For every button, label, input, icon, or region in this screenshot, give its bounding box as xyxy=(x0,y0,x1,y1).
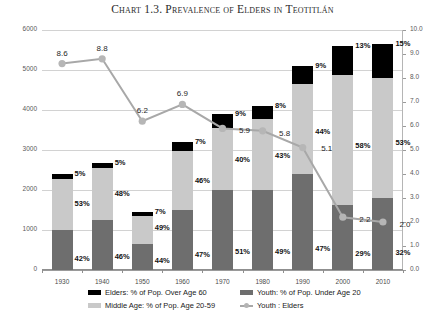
ratio-data-point xyxy=(339,214,346,221)
legend-label: Elders: % of Pop. Over Age 60 xyxy=(105,288,207,297)
legend-swatch-icon xyxy=(88,290,101,295)
x-axis-tick-label: 1960 xyxy=(175,278,189,285)
y-axis-tick-label: 3000 xyxy=(23,146,37,153)
y-axis-tick-label: 2000 xyxy=(23,186,37,193)
legend-item[interactable]: Youth: % of Pop. Under Age 20 xyxy=(240,288,388,297)
legend-item[interactable]: Middle Age: % of Pop. Age 20-59 xyxy=(88,301,240,310)
y2-axis-tick-mark xyxy=(403,198,406,199)
ratio-data-label: 2.2 xyxy=(359,215,370,224)
y-axis-tick-label: 5000 xyxy=(23,66,37,73)
x-axis-tick-mark xyxy=(42,270,43,273)
ratio-data-label: 5.8 xyxy=(279,129,290,138)
x-axis-tick-mark xyxy=(243,270,244,273)
y-axis-tick-label: 4000 xyxy=(23,106,37,113)
x-axis-tick-label: 1930 xyxy=(55,278,69,285)
ratio-data-label: 2.0 xyxy=(399,220,410,229)
y2-axis-tick-label: 6.0 xyxy=(410,122,419,129)
ratio-data-point xyxy=(139,118,146,125)
x-axis-tick-label: 1980 xyxy=(255,278,269,285)
x-axis-tick-mark xyxy=(122,270,123,273)
y2-axis-tick-label: 9.0 xyxy=(410,50,419,57)
ratio-data-point xyxy=(219,125,226,132)
x-axis-tick-mark xyxy=(323,270,324,273)
y2-axis-tick-label: 3.0 xyxy=(410,194,419,201)
legend-item[interactable]: Youth : Elders xyxy=(240,301,388,310)
chart-legend: Elders: % of Pop. Over Age 60Youth: % of… xyxy=(88,286,388,312)
x-axis-tick-mark xyxy=(363,270,364,273)
ratio-data-label: 5.1 xyxy=(321,144,332,153)
x-axis-tick-mark xyxy=(162,270,163,273)
ratio-data-label: 5.9 xyxy=(239,126,250,135)
y2-axis-tick-label: 2.0 xyxy=(410,218,419,225)
x-axis-tick-label: 1950 xyxy=(135,278,149,285)
ratio-line-series xyxy=(42,30,403,270)
y-axis-tick-label: 0 xyxy=(33,266,37,273)
y2-axis-tick-mark xyxy=(403,246,406,247)
x-axis-tick-mark xyxy=(403,270,404,273)
x-axis-tick-label: 1990 xyxy=(295,278,309,285)
ratio-data-point xyxy=(58,60,65,67)
ratio-data-label: 8.6 xyxy=(56,49,67,58)
y2-axis-tick-label: 5.0 xyxy=(410,146,419,153)
ratio-data-point xyxy=(179,101,186,108)
legend-item[interactable]: Elders: % of Pop. Over Age 60 xyxy=(88,288,240,297)
y2-axis-tick-mark xyxy=(403,30,406,31)
chart-container: Chart 1.3. Prevalence of Elders in Teoti… xyxy=(0,0,445,319)
ratio-line xyxy=(62,59,383,222)
y2-axis-tick-mark xyxy=(403,150,406,151)
x-axis-tick-mark xyxy=(283,270,284,273)
ratio-data-point xyxy=(379,218,386,225)
legend-swatch-icon xyxy=(240,302,253,309)
y2-axis-tick-label: 8.0 xyxy=(410,74,419,81)
x-axis-tick-label: 2010 xyxy=(376,278,390,285)
y2-axis-tick-label: 0.0 xyxy=(410,266,419,273)
y2-axis-tick-mark xyxy=(403,78,406,79)
plot-area: 0100020003000400050006000 0.01.02.03.04.… xyxy=(42,30,403,270)
y-axis-tick-label: 1000 xyxy=(23,226,37,233)
x-axis-tick-label: 1970 xyxy=(215,278,229,285)
x-axis-tick-mark xyxy=(82,270,83,273)
chart-title: Chart 1.3. Prevalence of Elders in Teoti… xyxy=(0,3,445,15)
y2-axis-tick-label: 4.0 xyxy=(410,170,419,177)
y2-axis-tick-mark xyxy=(403,102,406,103)
gridline xyxy=(42,270,403,271)
ratio-data-point xyxy=(259,127,266,134)
y2-axis-tick-label: 7.0 xyxy=(410,98,419,105)
legend-label: Youth : Elders xyxy=(257,301,303,310)
y2-axis-tick-mark xyxy=(403,174,406,175)
y2-axis-tick-label: 10.0 xyxy=(410,26,423,33)
y2-axis-tick-mark xyxy=(403,54,406,55)
legend-swatch-icon xyxy=(240,290,253,295)
legend-label: Middle Age: % of Pop. Age 20-59 xyxy=(105,301,215,310)
x-axis-tick-mark xyxy=(202,270,203,273)
legend-swatch-icon xyxy=(88,303,101,308)
ratio-data-label: 6.9 xyxy=(177,89,188,98)
ratio-data-label: 8.8 xyxy=(97,44,108,53)
ratio-data-point xyxy=(99,55,106,62)
x-axis-tick-label: 1940 xyxy=(95,278,109,285)
legend-label: Youth: % of Pop. Under Age 20 xyxy=(257,288,361,297)
ratio-data-label: 6.2 xyxy=(137,106,148,115)
y2-axis-tick-label: 1.0 xyxy=(410,242,419,249)
ratio-data-point xyxy=(299,144,306,151)
y-axis-tick-label: 6000 xyxy=(23,26,37,33)
y2-axis-tick-mark xyxy=(403,126,406,127)
x-axis-tick-label: 2000 xyxy=(336,278,350,285)
